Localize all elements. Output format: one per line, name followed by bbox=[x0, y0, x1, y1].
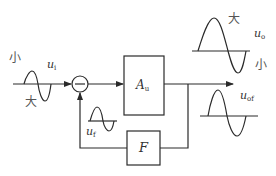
feedback-signal-label: uf bbox=[86, 126, 96, 139]
output-small-note: 小 bbox=[255, 59, 267, 71]
input-label-sub: i bbox=[54, 64, 56, 72]
output-signal-label: uo bbox=[254, 28, 265, 41]
output-feedback-label-sub: of bbox=[247, 95, 254, 103]
amplifier-label: Au bbox=[136, 79, 149, 93]
output-waveform bbox=[198, 18, 246, 73]
feedback-block-label: F bbox=[139, 141, 148, 154]
input-small-note: 小 bbox=[9, 52, 21, 64]
output-large-note: 大 bbox=[228, 13, 240, 25]
output-label-sub: o bbox=[261, 33, 265, 41]
input-signal-label: ui bbox=[47, 59, 56, 72]
output-feedback-signal-label: uof bbox=[240, 90, 254, 103]
input-large-note: 大 bbox=[25, 96, 37, 108]
feedback-label-sub: f bbox=[93, 131, 96, 139]
amplifier-label-main: A bbox=[136, 78, 145, 92]
amplifier-label-sub: u bbox=[145, 85, 150, 93]
feedback-block-diagram: 小 大 ui Au F uf 大 uo 小 uof bbox=[0, 0, 276, 176]
